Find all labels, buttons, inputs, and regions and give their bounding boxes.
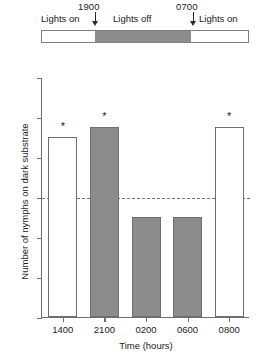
bar-slot bbox=[173, 77, 202, 317]
x-tick-mark bbox=[229, 318, 230, 322]
y-axis-title: Number of nymphs on dark substrate bbox=[19, 102, 30, 302]
plot-area: 04812162024 *** 14002100020006000800 Tim… bbox=[41, 78, 249, 318]
x-tick-label-0800: 0800 bbox=[209, 324, 249, 335]
y-tick-mark bbox=[37, 318, 42, 319]
x-tick-label-1400: 1400 bbox=[43, 324, 83, 335]
significance-marker-2100: * bbox=[90, 111, 119, 122]
bar-2100[interactable] bbox=[90, 127, 119, 317]
bar-series: *** bbox=[42, 77, 250, 317]
bar-slot: * bbox=[90, 77, 119, 317]
x-tick-label-0600: 0600 bbox=[168, 324, 208, 335]
bar-slot: * bbox=[215, 77, 244, 317]
significance-marker-0800: * bbox=[215, 111, 244, 122]
bar-slot bbox=[132, 77, 161, 317]
x-tick-mark bbox=[104, 318, 105, 322]
bar-0800[interactable] bbox=[215, 127, 244, 317]
bar-slot: * bbox=[48, 77, 77, 317]
x-tick-mark bbox=[63, 318, 64, 322]
significance-marker-1400: * bbox=[48, 121, 77, 132]
x-tick-label-2100: 2100 bbox=[84, 324, 124, 335]
bar-1400[interactable] bbox=[48, 137, 77, 317]
x-tick-label-0200: 0200 bbox=[126, 324, 166, 335]
x-tick-mark bbox=[146, 318, 147, 322]
bar-chart: Number of nymphs on dark substrate 04812… bbox=[0, 0, 259, 357]
x-axis-title: Time (hours) bbox=[42, 340, 250, 351]
bar-0200[interactable] bbox=[132, 217, 161, 317]
bar-0600[interactable] bbox=[173, 217, 202, 317]
x-tick-mark bbox=[188, 318, 189, 322]
